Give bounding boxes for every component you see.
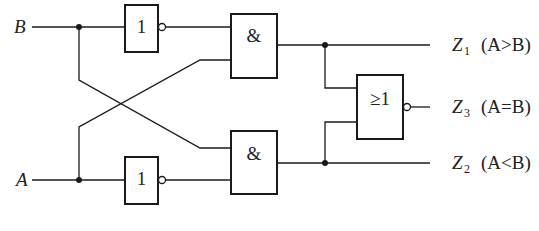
output-z3-name: Z bbox=[452, 96, 463, 117]
input-label-b: B bbox=[14, 16, 26, 37]
junction-b bbox=[76, 24, 82, 30]
and-gate-top-symbol: & bbox=[247, 25, 262, 46]
output-label-z2: Z 2 (A<B) bbox=[452, 152, 531, 176]
nor-gate: ≥1 bbox=[357, 75, 411, 139]
junction-z1 bbox=[322, 42, 328, 48]
not-gate-a: 1 bbox=[125, 157, 166, 204]
output-label-z1: Z 1 (A>B) bbox=[452, 34, 531, 58]
not-gate-a-symbol: 1 bbox=[137, 168, 147, 189]
output-z1-condition: (A>B) bbox=[481, 34, 531, 56]
output-z1-name: Z bbox=[452, 34, 463, 55]
output-label-z3: Z 3 (A=B) bbox=[452, 96, 531, 120]
wire-z1-nor bbox=[325, 45, 357, 88]
and-gate-top: & bbox=[231, 14, 277, 78]
circuit-svg: 1 1 & & ≥1 B A Z 1 (A>B) Z 3 (A bbox=[0, 0, 539, 231]
junction-a bbox=[76, 177, 82, 183]
output-z2-sub: 2 bbox=[464, 162, 470, 176]
inversion-bubble-icon bbox=[159, 24, 166, 31]
not-gate-b-symbol: 1 bbox=[137, 16, 147, 37]
output-z3-sub: 3 bbox=[464, 106, 470, 120]
inversion-bubble-icon bbox=[159, 177, 166, 184]
output-z3-condition: (A=B) bbox=[481, 96, 531, 118]
and-gate-bottom: & bbox=[231, 131, 277, 194]
output-z2-condition: (A<B) bbox=[481, 152, 531, 174]
not-gate-b: 1 bbox=[125, 5, 166, 52]
and-gate-bottom-symbol: & bbox=[247, 143, 262, 164]
junction-z2 bbox=[322, 160, 328, 166]
output-z2-name: Z bbox=[452, 152, 463, 173]
output-z1-sub: 1 bbox=[464, 44, 470, 58]
input-label-a: A bbox=[14, 169, 28, 190]
inversion-bubble-icon bbox=[404, 104, 411, 111]
logic-diagram: 1 1 & & ≥1 B A Z 1 (A>B) Z 3 (A bbox=[0, 0, 539, 231]
nor-gate-symbol: ≥1 bbox=[370, 88, 390, 109]
wire-z2-nor bbox=[325, 122, 357, 163]
